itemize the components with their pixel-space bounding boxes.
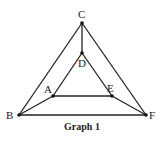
label-A: A [44, 83, 52, 95]
vertex-F [144, 113, 148, 117]
label-E: E [107, 82, 114, 94]
vertex-D [80, 51, 84, 55]
edge-C-F [82, 23, 146, 115]
vertex-E [110, 94, 114, 98]
label-B: B [6, 109, 13, 121]
vertex-B [17, 113, 21, 117]
vertex-C [80, 21, 84, 25]
label-C: C [78, 8, 85, 20]
edge-A-B [19, 96, 53, 115]
label-F: F [149, 109, 155, 121]
edge-B-C [19, 23, 82, 115]
edges [19, 23, 146, 115]
graph-title: Graph 1 [64, 121, 100, 132]
graph-figure: A B C D E F Graph 1 [0, 0, 164, 141]
label-D: D [78, 57, 86, 69]
edge-E-F [112, 96, 146, 115]
graph-canvas: A B C D E F Graph 1 [0, 0, 164, 141]
